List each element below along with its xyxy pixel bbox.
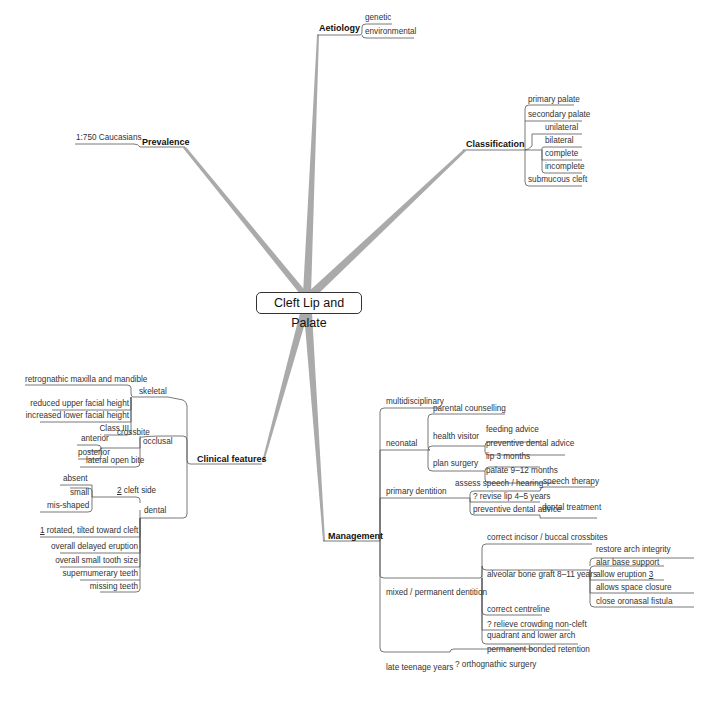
node-mixed-permanent[interactable]: mixed / permanent dentition	[386, 588, 487, 598]
node-occlusal[interactable]: occlusal	[143, 437, 173, 447]
node-submucous-cleft[interactable]: submucous cleft	[528, 175, 587, 185]
node-bonded-retention[interactable]: permanent bonded retention	[487, 645, 590, 655]
node-relieve-crowding-2[interactable]: quadrant and lower arch	[487, 631, 575, 641]
node-palate-9-12-months[interactable]: palate 9–12 months	[486, 466, 558, 476]
allow-eruption-label: allow eruption	[596, 570, 649, 579]
node-orthognathic-surgery[interactable]: ? orthognathic surgery	[455, 660, 536, 670]
node-assess-speech[interactable]: assess speech / hearing	[455, 479, 543, 489]
node-increased-lower[interactable]: increased lower facial height	[25, 411, 129, 421]
node-feeding-advice[interactable]: feeding advice	[486, 425, 539, 435]
node-small-tooth-size[interactable]: overall small tooth size	[30, 556, 138, 566]
node-revise-lip[interactable]: ? revise lip 4–5 years	[473, 492, 550, 502]
node-parental-counselling[interactable]: parental counselling	[433, 404, 506, 414]
node-anterior[interactable]: anterior	[81, 434, 109, 444]
node-reduced-upper[interactable]: reduced upper facial height	[25, 399, 129, 409]
node-correct-crossbites[interactable]: correct incisor / buccal crossbites	[487, 533, 608, 543]
node-classification[interactable]: Classification	[466, 139, 525, 149]
root-node[interactable]: Cleft Lip and Palate	[256, 292, 362, 314]
node-prevalence[interactable]: Prevalence	[142, 137, 190, 147]
rotated-label: rotated, tilted toward cleft	[45, 526, 139, 535]
node-dental-treatment[interactable]: dental treatment	[542, 503, 601, 513]
branch-aetiology	[303, 35, 319, 294]
node-small[interactable]: small	[70, 488, 89, 498]
node-alar-base[interactable]: alar base support	[596, 558, 659, 568]
node-alveolar-bone-graft[interactable]: alveolar bone graft 8–11 years	[487, 570, 597, 580]
cleft-side-label: cleft side	[122, 486, 157, 495]
node-relieve-crowding-1[interactable]: ? relieve crowding non-cleft	[487, 620, 587, 630]
node-genetic[interactable]: genetic	[365, 13, 391, 23]
node-bilateral[interactable]: bilateral	[545, 136, 574, 146]
node-clinical-features[interactable]: Clinical features	[197, 454, 267, 464]
branch-clinical	[262, 313, 308, 462]
branch-management	[304, 313, 325, 541]
node-retrognathic[interactable]: retrognathic maxilla and mandible	[25, 375, 129, 385]
node-incomplete[interactable]: incomplete	[545, 162, 585, 172]
node-aetiology[interactable]: Aetiology	[319, 23, 360, 33]
tooth-number-3: 3	[649, 570, 654, 579]
node-restore-arch[interactable]: restore arch integrity	[596, 545, 671, 555]
node-missing-teeth[interactable]: missing teeth	[30, 582, 138, 592]
node-delayed-eruption[interactable]: overall delayed eruption	[30, 542, 138, 552]
node-lip-3-months[interactable]: lip 3 months	[486, 452, 530, 462]
node-space-closure[interactable]: allows space closure	[596, 583, 672, 593]
node-neonatal[interactable]: neonatal	[386, 439, 417, 449]
node-health-visitor[interactable]: health visitor	[433, 432, 479, 442]
node-speech-therapy[interactable]: speech therapy	[543, 477, 599, 487]
node-rotated[interactable]: 1 rotated, tilted toward cleft	[40, 526, 138, 536]
node-late-teenage[interactable]: late teenage years	[386, 663, 453, 673]
node-allow-eruption[interactable]: allow eruption 3	[596, 570, 653, 580]
node-environmental[interactable]: environmental	[365, 27, 416, 37]
node-primary-dentition[interactable]: primary dentition	[386, 487, 447, 497]
node-skeletal[interactable]: skeletal	[139, 387, 167, 397]
node-plan-surgery[interactable]: plan surgery	[433, 459, 478, 469]
node-complete[interactable]: complete	[545, 149, 578, 159]
node-unilateral[interactable]: unilateral	[545, 123, 578, 133]
node-crossbite[interactable]: crossbite	[117, 428, 150, 438]
node-prevalence-value[interactable]: 1:750 Caucasians	[76, 133, 142, 143]
node-preventive-dental-advice-neonatal[interactable]: preventive dental advice	[486, 439, 574, 449]
node-lateral-open-bite[interactable]: lateral open bite	[86, 456, 144, 466]
node-mis-shaped[interactable]: mis-shaped	[47, 501, 89, 511]
branch-classification	[306, 150, 466, 296]
branch-prevalence	[183, 147, 308, 294]
node-primary-palate[interactable]: primary palate	[528, 95, 580, 105]
node-absent[interactable]: absent	[63, 474, 88, 484]
node-management[interactable]: Management	[328, 531, 383, 541]
node-oronasal-fistula[interactable]: close oronasal fistula	[596, 597, 672, 607]
node-cleft-side[interactable]: 2 cleft side	[117, 486, 156, 496]
node-secondary-palate[interactable]: secondary palate	[528, 110, 590, 120]
node-dental[interactable]: dental	[144, 506, 166, 516]
node-class-iii[interactable]: Class III	[25, 424, 129, 434]
node-correct-centreline[interactable]: correct centreline	[487, 605, 550, 615]
node-supernumerary[interactable]: supernumerary teeth	[30, 569, 138, 579]
